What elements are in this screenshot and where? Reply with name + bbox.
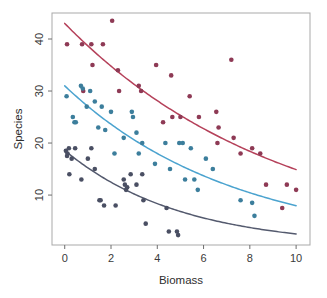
data-point-mid [71, 115, 76, 120]
data-point-mid [99, 104, 104, 109]
data-point-low [113, 203, 118, 208]
data-point-high [229, 58, 234, 63]
data-point-high [65, 42, 70, 47]
data-point-mid [131, 115, 136, 120]
data-point-low [67, 146, 72, 151]
data-point-mid [195, 188, 200, 193]
data-point-mid [189, 146, 194, 151]
data-point-high [101, 42, 106, 47]
data-point-high [139, 89, 144, 94]
data-point-low [143, 221, 148, 226]
data-point-mid [112, 151, 117, 156]
data-point-high [280, 206, 285, 211]
data-point-low [67, 172, 72, 177]
data-point-high [250, 146, 255, 151]
y-axis-title: Species [12, 108, 24, 149]
data-point-mid [211, 167, 216, 172]
data-point-mid [136, 151, 141, 156]
x-tick-label: 0 [62, 252, 68, 264]
data-point-mid [88, 89, 93, 94]
data-point-mid [84, 104, 89, 109]
x-tick-label: 10 [290, 252, 302, 264]
data-point-mid [64, 94, 69, 99]
data-point-high [285, 182, 290, 187]
data-point-low [141, 198, 146, 203]
data-point-high [110, 19, 115, 24]
data-point-low [134, 182, 139, 187]
data-point-mid [109, 110, 114, 115]
data-point-low [128, 172, 133, 177]
data-point-low [121, 177, 126, 182]
data-point-high [117, 89, 122, 94]
data-point-high [89, 42, 94, 47]
data-point-high [231, 136, 236, 141]
data-point-mid [103, 128, 108, 133]
data-point-mid [130, 110, 135, 115]
data-point-mid [134, 130, 139, 135]
data-point-high [169, 73, 174, 78]
data-point-mid [121, 136, 126, 141]
data-point-high [154, 63, 159, 68]
scatter-plot-figure: 10203040 0246810 Species Biomass [0, 0, 327, 298]
data-point-mid [80, 86, 85, 91]
x-tick-label: 6 [200, 252, 206, 264]
data-point-low [176, 233, 181, 238]
data-point-high [264, 182, 269, 187]
data-point-high [197, 115, 202, 120]
data-point-mid [96, 125, 101, 130]
data-point-high [214, 110, 219, 115]
data-point-high [294, 188, 299, 193]
x-tick-label: 4 [154, 252, 160, 264]
data-point-high [170, 115, 175, 120]
data-point-mid [180, 141, 185, 146]
data-point-low [98, 198, 103, 203]
data-point-low [65, 151, 70, 156]
data-point-low [102, 203, 107, 208]
data-point-high [136, 84, 141, 89]
data-point-low [167, 229, 172, 234]
y-tick-label: 10 [33, 189, 45, 201]
data-point-high [216, 125, 221, 130]
data-point-mid [163, 141, 168, 146]
data-point-high [215, 141, 220, 146]
data-point-mid [140, 141, 145, 146]
data-point-mid [74, 120, 79, 125]
data-point-high [161, 120, 166, 125]
x-tick-label: 8 [247, 252, 253, 264]
data-point-high [187, 94, 192, 99]
y-tick-label: 30 [33, 85, 45, 97]
data-point-mid [183, 177, 188, 182]
data-point-mid [168, 167, 173, 172]
data-point-low [93, 167, 98, 172]
data-point-mid [93, 99, 98, 104]
data-point-mid [252, 214, 257, 219]
data-point-mid [153, 162, 158, 167]
x-axis-title: Biomass [159, 274, 203, 286]
data-point-low [86, 156, 91, 161]
data-point-high [258, 151, 263, 156]
data-point-high [80, 42, 85, 47]
data-point-high [90, 63, 95, 68]
x-tick-label: 2 [108, 252, 114, 264]
data-point-low [79, 177, 84, 182]
data-point-high [238, 151, 243, 156]
data-point-mid [250, 201, 255, 206]
y-tick-label: 20 [33, 137, 45, 149]
data-point-low [140, 172, 145, 177]
figure-background [0, 0, 327, 298]
data-point-low [73, 146, 78, 151]
data-point-low [89, 146, 94, 151]
plot-canvas: 10203040 0246810 Species Biomass [0, 0, 327, 298]
data-point-mid [204, 156, 209, 161]
data-point-high [178, 115, 183, 120]
data-point-mid [238, 198, 243, 203]
data-point-mid [192, 177, 197, 182]
data-point-low [69, 156, 74, 161]
data-point-high [116, 68, 121, 73]
y-tick-label: 40 [33, 33, 45, 45]
data-point-low [164, 206, 169, 211]
data-point-low [125, 185, 130, 190]
